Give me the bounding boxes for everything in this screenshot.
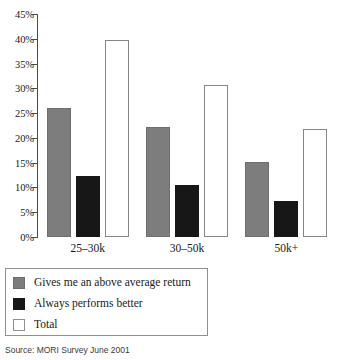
- bar: [303, 129, 327, 237]
- legend-swatch-black: [13, 298, 25, 310]
- y-axis: 0%5%10%15%20%25%30%35%40%45%: [0, 0, 34, 250]
- bar-chart: 0%5%10%15%20%25%30%35%40%45% 25–30k30–50…: [0, 0, 337, 360]
- legend-item-label: Gives me an above average return: [34, 276, 191, 289]
- legend: Gives me an above average returnAlways p…: [5, 268, 208, 336]
- bar: [105, 40, 129, 237]
- bars-container: [38, 14, 336, 237]
- y-tick-mark: [31, 237, 37, 238]
- y-tick-mark: [31, 138, 37, 139]
- y-tick-label: 40%: [0, 33, 34, 44]
- bar: [274, 201, 298, 237]
- y-tick-mark: [31, 187, 37, 188]
- y-tick-mark: [31, 14, 37, 15]
- source-note: Source: MORI Survey June 2001: [5, 345, 130, 355]
- y-tick-label: 45%: [0, 9, 34, 20]
- y-tick-label: 5%: [0, 207, 34, 218]
- bar: [175, 185, 199, 237]
- plot-area: 0%5%10%15%20%25%30%35%40%45% 25–30k30–50…: [0, 0, 337, 250]
- legend-item[interactable]: Gives me an above average return: [13, 272, 191, 293]
- legend-item[interactable]: Always performs better: [13, 293, 143, 314]
- x-tick-label: 30–50k: [137, 241, 236, 255]
- bar: [245, 162, 269, 237]
- y-tick-label: 35%: [0, 58, 34, 69]
- y-tick-label: 30%: [0, 83, 34, 94]
- y-tick-mark: [31, 64, 37, 65]
- legend-item-label: Always performs better: [34, 297, 143, 310]
- bar: [146, 127, 170, 237]
- y-tick-label: 10%: [0, 182, 34, 193]
- y-tick-label: 15%: [0, 157, 34, 168]
- legend-item[interactable]: Total: [13, 314, 57, 335]
- bar-group: [47, 14, 129, 237]
- y-tick-label: 0%: [0, 232, 34, 243]
- y-tick-label: 25%: [0, 108, 34, 119]
- bar-group: [245, 14, 327, 237]
- y-tick-label: 20%: [0, 132, 34, 143]
- legend-swatch-gray: [13, 277, 25, 289]
- y-tick-mark: [31, 88, 37, 89]
- legend-item-label: Total: [34, 318, 57, 331]
- bar-group: [146, 14, 228, 237]
- bar: [47, 108, 71, 237]
- x-tick-label: 25–30k: [38, 241, 137, 255]
- y-tick-mark: [31, 212, 37, 213]
- x-tick-label: 50k+: [237, 241, 336, 255]
- y-tick-mark: [31, 39, 37, 40]
- legend-swatch-white: [13, 319, 25, 331]
- y-tick-mark: [31, 113, 37, 114]
- y-tick-mark: [31, 163, 37, 164]
- bar: [76, 176, 100, 237]
- bar: [204, 85, 228, 237]
- x-axis-category-labels: 25–30k30–50k50k+: [38, 241, 336, 259]
